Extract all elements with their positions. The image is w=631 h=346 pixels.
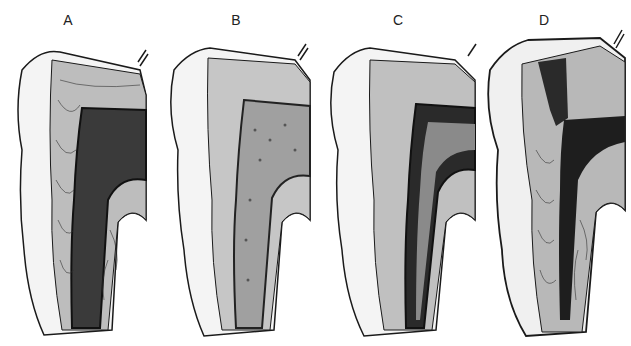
tooth-illustration-c bbox=[320, 0, 480, 346]
tooth-illustration-d bbox=[480, 0, 631, 346]
panel-d: D bbox=[480, 0, 631, 346]
tooth-illustration-a bbox=[0, 0, 160, 346]
panel-a: A bbox=[0, 0, 160, 346]
tooth-illustration-b bbox=[160, 0, 320, 346]
panel-c: C bbox=[320, 0, 480, 346]
panel-b: B bbox=[160, 0, 320, 346]
